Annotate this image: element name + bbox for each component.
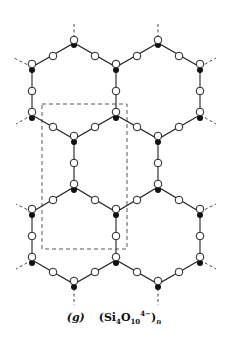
formula: (Si4O104−)n [99, 311, 162, 324]
bonds [32, 43, 200, 284]
figure-caption: (g) (Si4O104−)n [0, 309, 228, 326]
figure-label: (g) [67, 311, 85, 324]
silicate-sheet-diagram [0, 0, 228, 348]
